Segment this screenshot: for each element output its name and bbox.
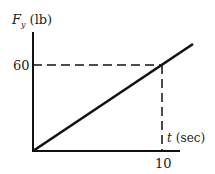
x-axis-label: t(sec) [167,131,205,145]
force-time-diagram: Fy(lb) 60 10 t(sec) [0,0,215,174]
x-tick-10: 10 [155,156,172,171]
y-axis-label: Fy(lb) [11,12,52,29]
y-tick-60: 60 [13,58,30,73]
